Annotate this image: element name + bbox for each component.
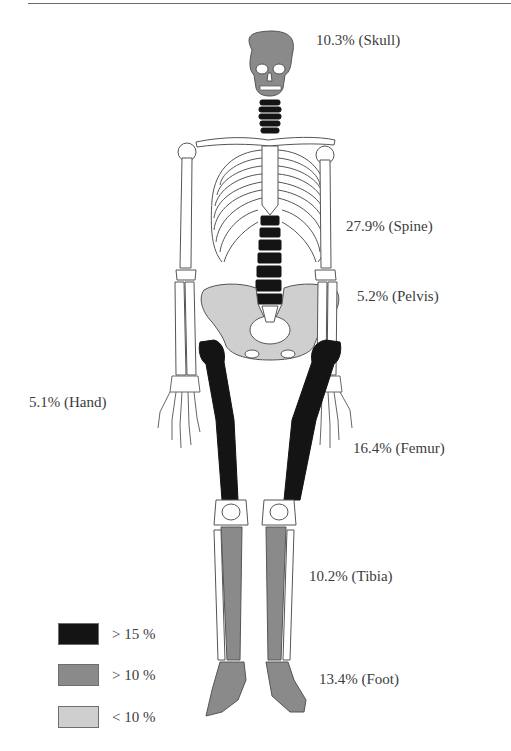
label-spine: 27.9% (Spine)	[346, 218, 433, 235]
legend-swatch-medium	[58, 664, 99, 686]
cervical-spine	[259, 100, 281, 133]
label-pelvis: 5.2% (Pelvis)	[357, 288, 439, 305]
knees	[214, 500, 296, 525]
label-femur: 16.4% (Femur)	[353, 440, 445, 457]
legend-item-high: > 15 %	[58, 623, 155, 645]
label-foot: 13.4% (Foot)	[319, 671, 399, 688]
legend-swatch-high	[58, 623, 99, 645]
legend-label-low: < 10 %	[112, 709, 155, 726]
left-arm	[175, 158, 196, 375]
label-hand: 5.1% (Hand)	[29, 394, 106, 411]
feet	[206, 662, 306, 716]
label-skull: 10.3% (Skull)	[316, 32, 400, 49]
legend-label-medium: > 10 %	[112, 667, 155, 684]
legend-item-low: < 10 %	[58, 706, 155, 728]
skull	[249, 31, 293, 96]
legend-item-medium: > 10 %	[58, 664, 155, 686]
tibiae	[214, 527, 294, 660]
femurs	[199, 340, 341, 500]
spine	[256, 216, 282, 304]
legend-swatch-low	[58, 706, 99, 728]
legend-label-high: > 15 %	[112, 626, 155, 643]
label-tibia: 10.2% (Tibia)	[309, 568, 393, 585]
left-hand	[158, 376, 200, 448]
